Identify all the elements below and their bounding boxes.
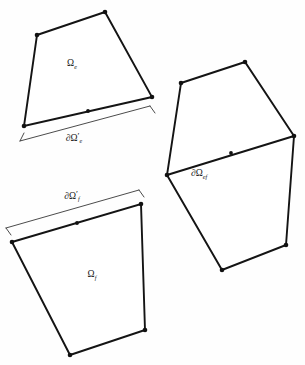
edge-midpoint-dot — [229, 151, 233, 155]
vertex-dot — [143, 328, 148, 333]
vertex-dot — [35, 33, 40, 38]
vertex-dot — [243, 60, 248, 65]
vertex-dot — [179, 81, 184, 86]
vertex-dot — [103, 10, 108, 15]
vertex-dot — [10, 240, 15, 245]
omega-f-group: Ωf — [10, 202, 148, 358]
figure-root: Ωe ∂Ω′e ∂Ωef — [0, 0, 305, 365]
edge-midpoint-dot — [75, 221, 79, 225]
boundary-e-label: ∂Ω′e — [66, 131, 83, 145]
vertex-dot — [139, 202, 144, 207]
edge-midpoint-dot — [86, 109, 90, 113]
figure-canvas: Ωe ∂Ω′e ∂Ωef — [0, 0, 305, 365]
assembled-polygon-face — [167, 62, 294, 270]
vertex-dot — [22, 124, 27, 129]
boundary-f-label: ∂Ω′f — [64, 189, 81, 203]
vertex-dot — [150, 95, 155, 100]
vertex-dot — [284, 243, 289, 248]
vertex-dot — [165, 173, 170, 178]
assembled-omega-ef-group: ∂Ωef — [165, 60, 297, 273]
vertex-dot — [292, 134, 297, 139]
vertex-dot — [68, 353, 73, 358]
omega-e-face — [24, 12, 152, 126]
vertex-dot — [220, 268, 225, 273]
